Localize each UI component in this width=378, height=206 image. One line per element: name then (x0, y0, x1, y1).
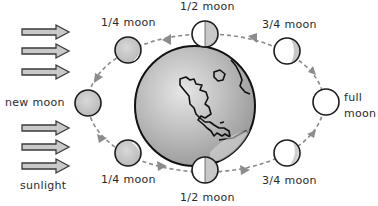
moon-three-quarter-bottom-label: 3/4 moon (262, 174, 317, 187)
moon-phases-diagram: sunlight new moon (0, 0, 378, 206)
moon-half-top (192, 21, 218, 47)
moon-three-quarter-top (274, 38, 300, 64)
orbit-arrow-icon (240, 165, 250, 175)
sunlight-arrow-icon (22, 44, 69, 58)
moon-new-label: new moon (5, 96, 65, 109)
sunlight-arrow-icon (22, 140, 69, 154)
moon-half-bottom (192, 157, 218, 183)
sunlight-label: sunlight (20, 179, 67, 192)
orbit-arrow-icon (248, 33, 257, 43)
moon-quarter-bottom-label: 1/4 moon (101, 173, 156, 186)
sunlight-arrow-icon (22, 121, 69, 135)
moon-half-bottom-label: 1/2 moon (180, 191, 235, 204)
sunlight-arrow-icon (22, 25, 69, 39)
moon-three-quarter-top-label: 3/4 moon (262, 18, 317, 31)
moon-full (313, 89, 339, 115)
moon-half-top-label: 1/2 moon (180, 0, 235, 13)
caribbean-islands (220, 122, 224, 123)
earth (135, 46, 255, 166)
sunlight-arrow-icon (22, 65, 69, 79)
moon-three-quarter-bottom (274, 140, 300, 166)
moon-quarter-top-label: 1/4 moon (101, 16, 156, 29)
moon-full-label-line2: moon (344, 107, 376, 120)
sunlight-arrow-icon (22, 159, 69, 173)
moon-full-label-line1: full (344, 91, 362, 104)
moon-quarter-top (115, 37, 141, 63)
orbit-arrow-icon (157, 161, 167, 171)
orbit-arrow-icon (162, 34, 171, 45)
moon-quarter-bottom (115, 140, 141, 166)
moon-new (75, 90, 101, 116)
